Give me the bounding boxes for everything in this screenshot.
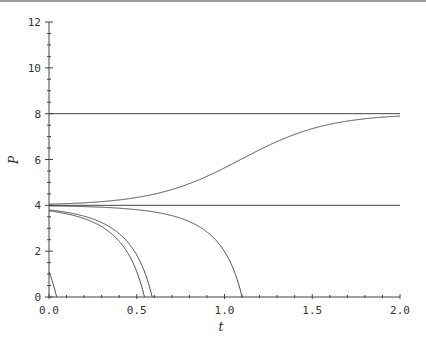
y-tick-label: 4 <box>34 199 41 212</box>
axes: 0.00.51.01.52.0024681012 <box>28 16 410 317</box>
x-tick-label: 0.5 <box>127 304 147 317</box>
y-tick-label: 12 <box>28 16 41 29</box>
y-tick-label: 6 <box>34 154 41 167</box>
y-tick-label: 10 <box>28 62 41 75</box>
solution-curve-lower2 <box>49 206 242 297</box>
x-tick-label: 2.0 <box>390 304 410 317</box>
x-tick-label: 1.0 <box>215 304 235 317</box>
chart: 0.00.51.01.52.0024681012 t P <box>0 0 426 343</box>
y-axis-label: P <box>7 155 21 165</box>
y-tick-label: 0 <box>34 291 41 304</box>
solution-curve-upper1 <box>49 272 57 297</box>
x-tick-label: 0.0 <box>39 304 59 317</box>
curves <box>49 114 400 297</box>
y-tick-label: 8 <box>34 108 41 121</box>
solution-curve-middle <box>49 116 400 204</box>
y-tick-label: 2 <box>34 245 41 258</box>
solution-curve-upper2 <box>49 211 145 297</box>
x-tick-label: 1.5 <box>302 304 322 317</box>
solution-curve-lower1 <box>49 210 153 297</box>
x-axis-label: t <box>219 320 224 334</box>
